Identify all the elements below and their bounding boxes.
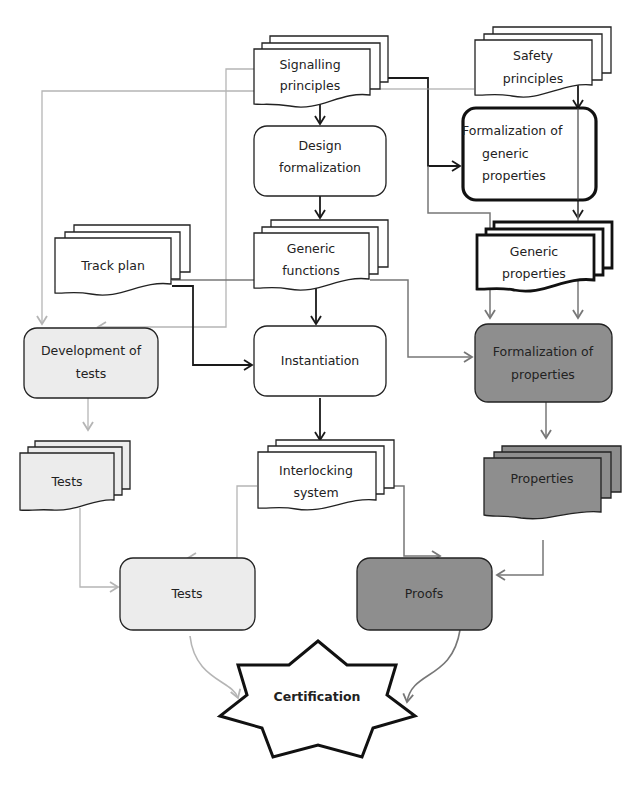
node-certification[interactable]: Certification	[220, 641, 415, 757]
certification-flow-diagram: Signalling principles Safety principles …	[0, 0, 643, 790]
arrow-proofs-to-certification	[407, 630, 460, 702]
node-interlocking-system[interactable]: Interlocking system	[258, 440, 394, 510]
node-properties-document[interactable]: Properties	[484, 446, 621, 519]
node-proofs[interactable]: Proofs	[357, 558, 492, 630]
label: system	[293, 485, 338, 500]
label: functions	[282, 263, 340, 278]
node-formalization-of-properties[interactable]: Formalization of properties	[475, 324, 612, 402]
label: generic	[482, 146, 529, 161]
label: Generic	[287, 241, 336, 256]
label: Safety	[513, 48, 554, 63]
label: Interlocking	[279, 463, 353, 478]
node-generic-properties[interactable]: Generic properties	[477, 222, 612, 291]
label: Generic	[510, 244, 559, 259]
arrow-track-plan-to-instantiation	[172, 286, 252, 365]
node-safety-principles[interactable]: Safety principles	[475, 27, 611, 97]
label: Tests	[50, 474, 82, 489]
label: Instantiation	[281, 353, 360, 368]
arrow-signalling-to-formalization-generic	[388, 78, 460, 166]
label: Formalization of	[462, 123, 563, 138]
node-development-of-tests[interactable]: Development of tests	[24, 328, 158, 398]
label: Design	[298, 138, 341, 153]
label: Tests	[170, 586, 202, 601]
label: Certification	[274, 689, 361, 704]
label: principles	[503, 71, 563, 86]
node-formalization-generic-properties[interactable]: Formalization of generic properties	[462, 108, 596, 200]
label: properties	[482, 168, 546, 183]
node-generic-functions[interactable]: Generic functions	[254, 220, 388, 290]
label: properties	[502, 266, 566, 281]
label: Development of	[41, 343, 142, 358]
label: formalization	[279, 160, 361, 175]
label: principles	[280, 78, 340, 93]
node-design-formalization[interactable]: Design formalization	[254, 126, 386, 196]
label: Formalization of	[493, 344, 594, 359]
arrow-properties-to-proofs	[497, 540, 543, 575]
node-track-plan[interactable]: Track plan	[55, 225, 190, 295]
arrow-interlocking-to-proofs	[384, 486, 440, 556]
label: Signalling	[279, 57, 340, 72]
label: Track plan	[80, 258, 145, 273]
label: tests	[76, 366, 107, 381]
label: properties	[511, 367, 575, 382]
label: Proofs	[405, 586, 443, 601]
label: Properties	[510, 471, 573, 486]
arrow-tests-to-certification	[190, 636, 238, 698]
node-instantiation[interactable]: Instantiation	[254, 326, 386, 396]
arrow-interlocking-to-tests	[188, 486, 257, 558]
node-signalling-principles[interactable]: Signalling principles	[254, 36, 388, 107]
arrow-tests-doc-to-tests	[80, 508, 118, 587]
node-tests-process[interactable]: Tests	[120, 558, 255, 630]
node-tests-document[interactable]: Tests	[20, 441, 130, 510]
